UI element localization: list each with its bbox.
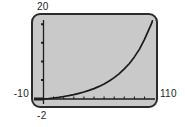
plot-frame [31, 13, 158, 108]
curve-series [44, 21, 153, 99]
plot-canvas [33, 15, 156, 106]
x-min-label: -10 [1, 88, 29, 99]
x-max-label: 110 [160, 88, 177, 99]
plot-widget: 20 -10 110 -2 [0, 0, 185, 127]
y-min-label: -2 [37, 110, 47, 121]
y-max-label: 20 [37, 1, 49, 12]
